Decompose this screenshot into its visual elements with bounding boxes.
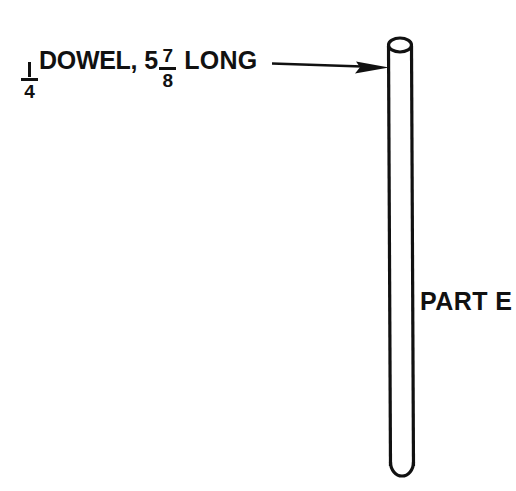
- technical-drawing-canvas: 1 4 DOWEL, 5 7 8 LONG PART E: [0, 0, 516, 491]
- dowel-right-edge: [412, 46, 414, 466]
- dowel-top-cap-ellipse: [389, 38, 412, 52]
- dowel-left-edge: [389, 46, 391, 466]
- dowel-bottom-cap-round: [391, 462, 414, 476]
- dowel-rod-part-e: [0, 0, 516, 491]
- part-label: PART E: [420, 289, 512, 314]
